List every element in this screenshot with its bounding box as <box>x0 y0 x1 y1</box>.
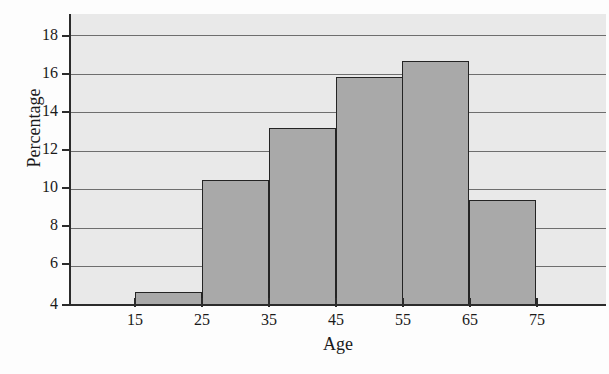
y-tick-16 <box>62 73 71 75</box>
x-tick-55 <box>402 298 404 307</box>
y-tick-4 <box>62 304 71 306</box>
x-tick-65 <box>469 298 471 307</box>
histogram-figure: 18 16 14 12 10 8 6 4 15 25 35 45 55 65 7… <box>0 0 609 374</box>
x-tick-label-65: 65 <box>448 311 492 329</box>
bar-45-55 <box>336 77 403 305</box>
x-axis-line <box>62 304 606 306</box>
x-tick-label-45: 45 <box>314 311 358 329</box>
y-tick-10 <box>62 187 71 189</box>
y-tick-14 <box>62 111 71 113</box>
y-tick-12 <box>62 149 71 151</box>
y-axis-line <box>69 14 71 305</box>
y-tick-6 <box>62 263 71 265</box>
gridline-16 <box>70 74 606 75</box>
x-tick-15 <box>134 298 136 307</box>
x-tick-25 <box>201 298 203 307</box>
bar-35-45 <box>269 128 336 305</box>
x-tick-35 <box>268 298 270 307</box>
y-tick-18 <box>62 35 71 37</box>
bar-25-35 <box>202 180 269 305</box>
x-tick-label-75: 75 <box>515 311 559 329</box>
x-tick-label-55: 55 <box>381 311 425 329</box>
y-tick-8 <box>62 225 71 227</box>
x-tick-45 <box>335 298 337 307</box>
x-tick-75 <box>536 298 538 307</box>
y-axis-label: Percentage <box>24 28 44 228</box>
bar-55-65 <box>402 61 469 305</box>
bar-65-75 <box>469 200 536 305</box>
y-tick-label-6: 6 <box>18 255 58 271</box>
x-tick-label-25: 25 <box>180 311 224 329</box>
x-axis-label: Age <box>70 334 606 354</box>
x-tick-label-35: 35 <box>247 311 291 329</box>
y-tick-label-4: 4 <box>18 296 58 312</box>
gridline-18 <box>70 35 606 36</box>
x-tick-label-15: 15 <box>113 311 157 329</box>
